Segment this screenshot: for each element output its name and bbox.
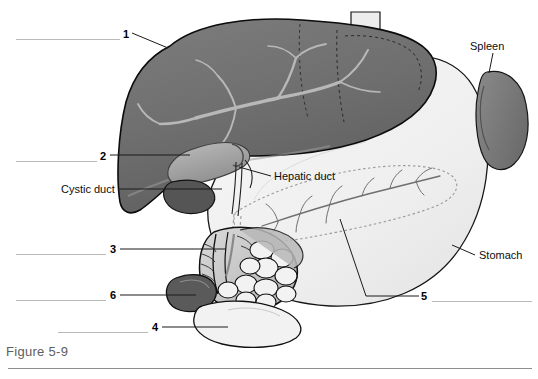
number-label-6: 6 <box>110 289 116 301</box>
leader-1 <box>132 33 168 48</box>
number-label-2: 2 <box>100 150 106 162</box>
gallbladder-fundus <box>164 180 215 213</box>
label-spleen: Spleen <box>470 40 504 52</box>
label-stomach: Stomach <box>479 249 522 261</box>
figure-container: 1 2 3 6 4 5 Spleen Hepatic duct Cystic d… <box>0 0 538 379</box>
number-label-4: 4 <box>152 321 158 333</box>
answer-line-6[interactable] <box>16 300 106 301</box>
figure-caption: Figure 5-9 <box>6 344 68 359</box>
answer-line-4[interactable] <box>58 332 148 333</box>
leader-spleen <box>489 53 493 73</box>
jejunum-segment <box>194 301 301 347</box>
footer-divider <box>8 368 532 369</box>
spleen-organ <box>476 71 528 169</box>
answer-line-2[interactable] <box>16 161 97 162</box>
label-hepatic-duct: Hepatic duct <box>274 170 335 182</box>
answer-line-1[interactable] <box>16 39 120 40</box>
answer-line-3[interactable] <box>16 254 106 255</box>
number-label-5: 5 <box>421 290 427 302</box>
label-cystic-duct: Cystic duct <box>61 183 115 195</box>
number-label-1: 1 <box>123 28 129 40</box>
number-label-3: 3 <box>110 243 116 255</box>
answer-line-5[interactable] <box>432 301 532 302</box>
